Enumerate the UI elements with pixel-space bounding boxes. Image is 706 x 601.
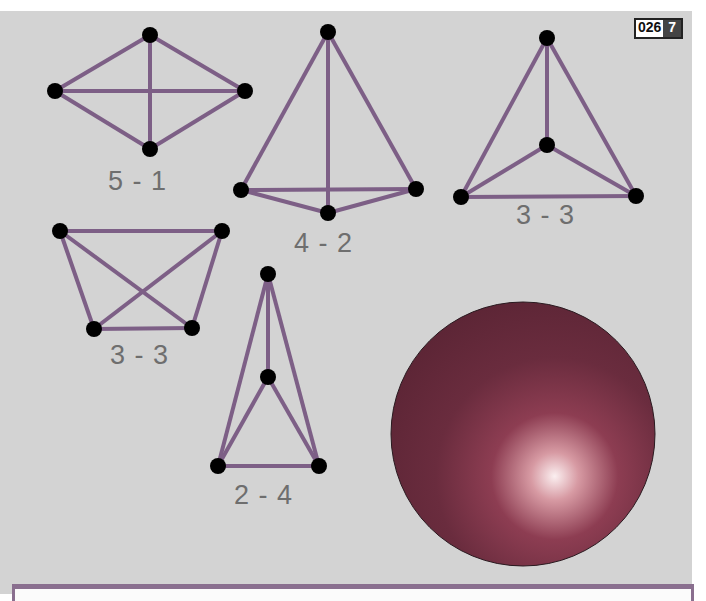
graph-4-2 — [241, 32, 416, 213]
badge-code: 026 — [636, 20, 663, 37]
graph-label-3-3-a: 3 - 3 — [516, 200, 575, 231]
graph-label-2-4: 2 - 4 — [234, 480, 293, 511]
graph-label-4-2: 4 - 2 — [294, 228, 353, 259]
graph-5-1 — [55, 35, 245, 149]
bottom-panel — [12, 584, 694, 601]
page-badge: 026 7 — [634, 18, 683, 39]
shaded-sphere — [391, 302, 655, 566]
badge-page: 7 — [663, 20, 681, 37]
graph-3-3-a — [461, 38, 636, 197]
graph-label-5-1: 5 - 1 — [108, 166, 167, 197]
graph-3-3-b — [60, 231, 222, 329]
graph-label-3-3-b: 3 - 3 — [110, 340, 169, 371]
